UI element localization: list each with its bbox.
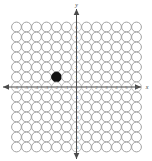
grid-circle[interactable] [92, 32, 102, 42]
grid-circle[interactable] [52, 32, 62, 42]
grid-circle[interactable] [52, 102, 62, 112]
grid-circle[interactable] [82, 142, 92, 152]
grid-circle[interactable] [82, 22, 92, 32]
grid-circle[interactable] [82, 122, 92, 132]
grid-circle[interactable] [122, 122, 132, 132]
grid-circle[interactable] [82, 102, 92, 112]
grid-circle[interactable] [62, 112, 72, 122]
grid-circle[interactable] [22, 32, 32, 42]
grid-circle[interactable] [82, 72, 92, 82]
grid-circle[interactable] [32, 142, 42, 152]
grid-circle[interactable] [112, 122, 122, 132]
grid-circle[interactable] [92, 112, 102, 122]
grid-circle[interactable] [12, 102, 22, 112]
grid-circle[interactable] [82, 112, 92, 122]
grid-circle[interactable] [52, 142, 62, 152]
grid-circle[interactable] [62, 92, 72, 102]
grid-circle[interactable] [62, 72, 72, 82]
grid-circle[interactable] [22, 132, 32, 142]
grid-circle[interactable] [52, 62, 62, 72]
grid-circle[interactable] [112, 112, 122, 122]
grid-circle[interactable] [32, 42, 42, 52]
grid-circle[interactable] [12, 72, 22, 82]
grid-circle[interactable] [22, 62, 32, 72]
grid-circle[interactable] [132, 72, 142, 82]
grid-circle[interactable] [32, 22, 42, 32]
grid-circle[interactable] [12, 32, 22, 42]
marked-point-circle[interactable] [52, 72, 62, 82]
grid-circle[interactable] [42, 112, 52, 122]
grid-circle[interactable] [112, 42, 122, 52]
grid-circle[interactable] [112, 52, 122, 62]
grid-circle[interactable] [102, 122, 112, 132]
grid-circle[interactable] [62, 42, 72, 52]
grid-circle[interactable] [122, 42, 132, 52]
grid-circle[interactable] [32, 122, 42, 132]
grid-circle[interactable] [92, 42, 102, 52]
grid-circle[interactable] [102, 42, 112, 52]
grid-circle[interactable] [82, 132, 92, 142]
grid-circle[interactable] [112, 72, 122, 82]
grid-circle[interactable] [132, 52, 142, 62]
grid-circle[interactable] [32, 92, 42, 102]
grid-circle[interactable] [82, 42, 92, 52]
grid-circle[interactable] [102, 22, 112, 32]
grid-circle[interactable] [132, 92, 142, 102]
grid-circle[interactable] [122, 142, 132, 152]
grid-circle[interactable] [92, 62, 102, 72]
grid-circle[interactable] [132, 22, 142, 32]
grid-circle[interactable] [32, 32, 42, 42]
grid-circle[interactable] [102, 32, 112, 42]
grid-circle[interactable] [122, 52, 132, 62]
grid-circle[interactable] [132, 62, 142, 72]
grid-circle[interactable] [42, 92, 52, 102]
grid-circle[interactable] [42, 22, 52, 32]
grid-circle[interactable] [102, 92, 112, 102]
grid-circle[interactable] [32, 112, 42, 122]
grid-circle[interactable] [12, 132, 22, 142]
grid-circle[interactable] [12, 112, 22, 122]
grid-circle[interactable] [132, 112, 142, 122]
grid-circle[interactable] [22, 42, 32, 52]
grid-circle[interactable] [82, 32, 92, 42]
grid-circle[interactable] [102, 52, 112, 62]
grid-circle[interactable] [52, 22, 62, 32]
grid-circle[interactable] [62, 32, 72, 42]
grid-circle[interactable] [22, 122, 32, 132]
grid-circle[interactable] [82, 92, 92, 102]
grid-circle[interactable] [112, 22, 122, 32]
grid-circle[interactable] [22, 102, 32, 112]
grid-circle[interactable] [32, 102, 42, 112]
grid-circle[interactable] [62, 62, 72, 72]
grid-circle[interactable] [42, 42, 52, 52]
grid-circle[interactable] [132, 142, 142, 152]
grid-circle[interactable] [82, 52, 92, 62]
grid-circle[interactable] [62, 52, 72, 62]
grid-circle[interactable] [92, 22, 102, 32]
grid-circle[interactable] [112, 92, 122, 102]
grid-circle[interactable] [62, 132, 72, 142]
grid-circle[interactable] [92, 142, 102, 152]
grid-circle[interactable] [42, 102, 52, 112]
grid-circle[interactable] [52, 92, 62, 102]
grid-circle[interactable] [42, 62, 52, 72]
grid-circle[interactable] [122, 32, 132, 42]
grid-circle[interactable] [112, 102, 122, 112]
grid-circle[interactable] [12, 52, 22, 62]
grid-circle[interactable] [102, 132, 112, 142]
grid-circle[interactable] [112, 62, 122, 72]
grid-circle[interactable] [42, 142, 52, 152]
grid-circle[interactable] [132, 122, 142, 132]
grid-circle[interactable] [22, 52, 32, 62]
grid-circle[interactable] [122, 72, 132, 82]
grid-circle[interactable] [52, 122, 62, 132]
grid-circle[interactable] [122, 62, 132, 72]
grid-circle[interactable] [22, 142, 32, 152]
grid-circle[interactable] [52, 52, 62, 62]
grid-circle[interactable] [92, 92, 102, 102]
grid-circle[interactable] [42, 122, 52, 132]
grid-circle[interactable] [92, 132, 102, 142]
grid-circle[interactable] [82, 62, 92, 72]
grid-circle[interactable] [62, 102, 72, 112]
grid-circle[interactable] [102, 102, 112, 112]
